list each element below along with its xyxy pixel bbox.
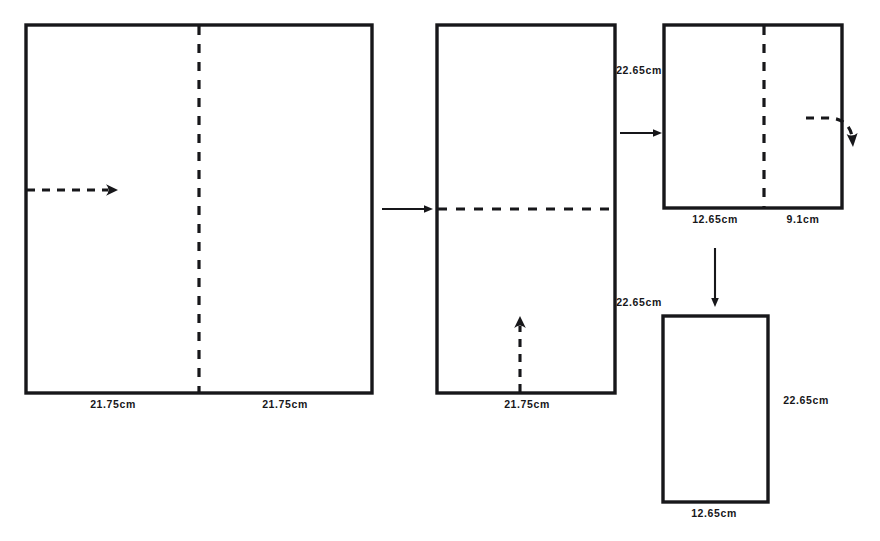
arrow-sheet2-to-sheet3: [620, 129, 662, 137]
sheet-4-outline: [663, 316, 768, 502]
sheet-1-bottom-right-dimension: 21.75cm: [262, 398, 308, 410]
sheet-3-bottom-right-dimension: 9.1cm: [787, 213, 820, 225]
sheet-2-group: [437, 25, 615, 393]
connector-3-head: [711, 298, 719, 307]
sheet-2-right-top-dimension: 22.65cm: [616, 64, 662, 76]
sheet-3-bottom-left-dimension: 12.65cm: [692, 213, 738, 225]
sheet-4-right-dimension: 22.65cm: [783, 394, 829, 406]
sheet-4-bottom-dimension: 12.65cm: [691, 507, 737, 519]
sheet-1-bottom-left-dimension: 21.75cm: [90, 398, 136, 410]
sheet-3-fold-arrow-shaft: [806, 118, 852, 136]
sheet-4-group: [663, 316, 768, 502]
sheet-2-right-bottom-dimension: 22.65cm: [616, 296, 662, 308]
sheet-3-group: [664, 25, 858, 208]
connector-2-head: [653, 129, 662, 137]
diagram-canvas: [0, 0, 880, 541]
paper-folding-diagram: 21.75cm 21.75cm 21.75cm 22.65cm 22.65cm …: [0, 0, 880, 541]
sheet-1-group: [26, 25, 372, 393]
arrow-sheet3-to-sheet4: [711, 248, 719, 307]
sheet-2-bottom-dimension: 21.75cm: [504, 398, 550, 410]
sheet-3-outline: [664, 25, 842, 208]
connector-1-head: [424, 205, 433, 213]
arrow-sheet1-to-sheet2: [382, 205, 433, 213]
sheet-3-fold-arrow-head: [847, 133, 858, 147]
